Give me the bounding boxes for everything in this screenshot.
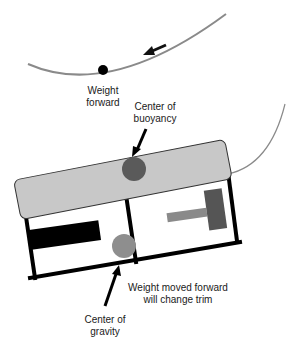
- top-curve: [28, 14, 226, 75]
- center-of-buoyancy-dot: [122, 157, 146, 181]
- black-block: [29, 220, 101, 250]
- right-curve: [228, 104, 285, 174]
- cob-label-2: buoyancy: [134, 113, 177, 124]
- trim-label-2: will change trim: [143, 294, 213, 305]
- t-bar: [167, 208, 208, 222]
- cog-label-2: gravity: [90, 326, 119, 337]
- buoyancy-arrow-icon: [132, 129, 146, 157]
- trim-diagram: Weight forward Center of buoyancy Weight…: [0, 0, 290, 347]
- trim-label-1: Weight moved forward: [128, 282, 228, 293]
- cog-label-1: Center of: [84, 314, 125, 325]
- weight-forward-label-1: Weight: [88, 85, 119, 96]
- weight-forward-label-2: forward: [86, 97, 119, 108]
- gravity-arrow-icon: [105, 265, 121, 306]
- t-handle: [204, 188, 227, 230]
- float-body: [14, 139, 233, 219]
- center-of-gravity-dot: [112, 234, 136, 258]
- weight-dot: [98, 65, 108, 75]
- cob-label-1: Center of: [134, 101, 175, 112]
